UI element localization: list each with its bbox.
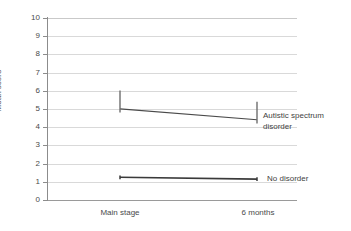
y-tick-label-0: 0 xyxy=(22,196,40,204)
asd-label-line-1: Autistic spectrum xyxy=(263,110,324,121)
series-label-no-disorder: No disorder xyxy=(267,173,308,184)
asd-label-line-2: disorder xyxy=(263,121,324,132)
x-tick-label-6-months: 6 months xyxy=(230,208,286,217)
y-tick-mark-10 xyxy=(43,18,47,19)
series-label-autistic-spectrum-disorder: Autistic spectrum disorder xyxy=(263,110,324,132)
y-tick-label-1: 1 xyxy=(22,178,40,186)
y-tick-mark-4 xyxy=(43,127,47,128)
y-tick-label-7: 7 xyxy=(22,69,40,77)
y-tick-label-4: 4 xyxy=(22,123,40,131)
y-tick-mark-3 xyxy=(43,145,47,146)
y-tick-label-9: 9 xyxy=(22,32,40,40)
y-tick-mark-2 xyxy=(43,164,47,165)
y-tick-mark-9 xyxy=(43,36,47,37)
y-tick-mark-8 xyxy=(43,54,47,55)
y-tick-mark-5 xyxy=(43,109,47,110)
y-tick-label-3: 3 xyxy=(22,141,40,149)
y-axis-title: Mean score xyxy=(0,70,3,112)
y-tick-label-8: 8 xyxy=(22,50,40,58)
x-tick-label-main-stage: Main stage xyxy=(92,208,148,217)
y-tick-label-10: 10 xyxy=(22,14,40,22)
chart-container: 10 9 8 7 6 5 4 3 2 1 0 Mean score Autist… xyxy=(0,0,351,231)
y-tick-label-2: 2 xyxy=(22,160,40,168)
y-tick-mark-0 xyxy=(43,200,47,201)
y-tick-mark-6 xyxy=(43,91,47,92)
y-tick-label-5: 5 xyxy=(22,105,40,113)
y-tick-mark-7 xyxy=(43,73,47,74)
y-tick-label-6: 6 xyxy=(22,87,40,95)
y-tick-mark-1 xyxy=(43,182,47,183)
